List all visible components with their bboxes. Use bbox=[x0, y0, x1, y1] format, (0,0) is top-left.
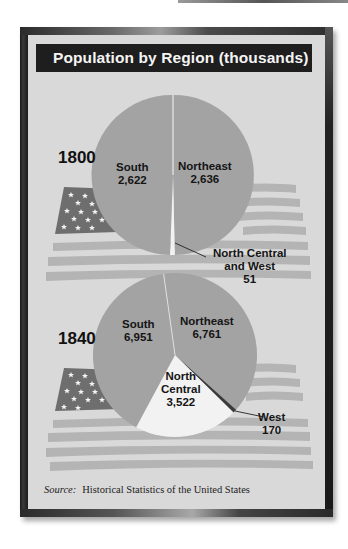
year-label-1840: 1840 bbox=[58, 329, 96, 349]
source-text: Historical Statistics of the United Stat… bbox=[82, 484, 250, 495]
frame-top-edge bbox=[20, 27, 333, 35]
label-1840-south: South 6,951 bbox=[122, 318, 155, 344]
label-1840-north-central: North Central 3,522 bbox=[161, 370, 201, 409]
label-1840-west: West 170 bbox=[258, 411, 285, 437]
label-1800-south: South 2,622 bbox=[116, 161, 149, 187]
label-1840-northeast: Northeast 6,761 bbox=[180, 315, 234, 341]
label-1800-northeast: Northeast 2,636 bbox=[178, 160, 232, 186]
page-edge-shadow bbox=[178, 0, 348, 3]
pie-1840 bbox=[93, 273, 264, 437]
source-note: Source:Historical Statistics of the Unit… bbox=[44, 484, 250, 495]
frame-right-edge bbox=[325, 27, 333, 517]
year-label-1800: 1800 bbox=[58, 148, 96, 168]
chart-panel: Population by Region (thousands) bbox=[28, 35, 325, 509]
chart-frame: Population by Region (thousands) bbox=[20, 27, 333, 517]
label-1800-ncw: North Central and West 51 bbox=[213, 247, 286, 286]
frame-bottom-edge bbox=[20, 509, 333, 517]
source-label: Source: bbox=[44, 484, 76, 495]
